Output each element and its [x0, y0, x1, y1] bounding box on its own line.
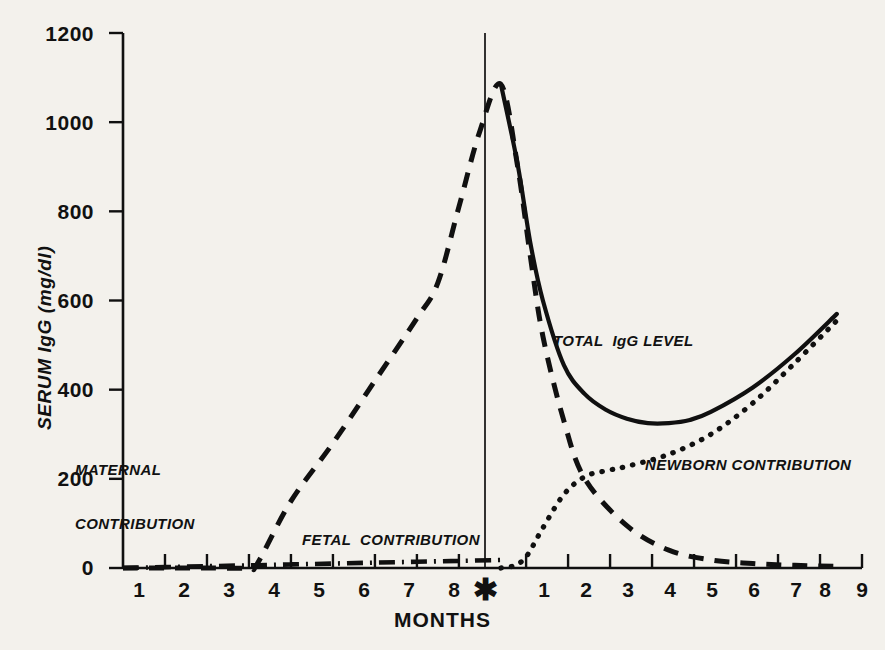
total-igg-level-label: TOTAL IgG LEVEL: [553, 332, 694, 350]
birth-asterisk-marker: ✱: [470, 572, 500, 607]
x-tick-label-postnatal: 9: [847, 578, 877, 602]
figure-container: 1200 1000 800 600 400 200 0 1 2 3 4 5 6 …: [0, 0, 885, 650]
newborn-contribution-label: NEWBORN CONTRIBUTION: [645, 456, 851, 474]
y-tick-label: 1000: [8, 111, 94, 135]
x-tick-label-prenatal: 3: [214, 578, 244, 602]
x-tick-label-prenatal: 5: [304, 578, 334, 602]
x-tick-label-prenatal: 2: [169, 578, 199, 602]
y-axis-title: SERUM IgG (mg/dl): [34, 246, 56, 430]
fetal-contribution-label: FETAL CONTRIBUTION: [302, 531, 480, 549]
x-tick-label-postnatal: 7: [781, 578, 811, 602]
x-tick-label-postnatal: 1: [529, 578, 559, 602]
axes-group: [109, 33, 862, 568]
maternal-label-line2: CONTRIBUTION: [75, 515, 195, 533]
x-tick-label-postnatal: 2: [571, 578, 601, 602]
x-tick-label-prenatal: 6: [349, 578, 379, 602]
maternal-label-line1: MATERNAL: [75, 461, 195, 479]
x-tick-label-postnatal: 5: [697, 578, 727, 602]
series-line-maternal-contribution: [123, 84, 837, 570]
x-tick-label-prenatal: 1: [124, 578, 154, 602]
y-tick-label: 800: [8, 200, 94, 224]
x-axis-title: MONTHS: [0, 608, 885, 632]
x-tick-label-postnatal: 8: [810, 578, 840, 602]
series-line-total-igg-level: [501, 84, 837, 423]
data-series-group: [123, 84, 837, 570]
x-tick-label-prenatal: 8: [439, 578, 469, 602]
x-tick-label-postnatal: 4: [655, 578, 685, 602]
x-tick-label-prenatal: 7: [394, 578, 424, 602]
y-tick-label: 1200: [8, 22, 94, 46]
x-tick-label-prenatal: 4: [259, 578, 289, 602]
x-tick-label-postnatal: 6: [739, 578, 769, 602]
series-line-newborn-contribution: [501, 321, 837, 568]
x-tick-label-postnatal: 3: [613, 578, 643, 602]
maternal-contribution-label: MATERNAL CONTRIBUTION: [75, 424, 195, 570]
